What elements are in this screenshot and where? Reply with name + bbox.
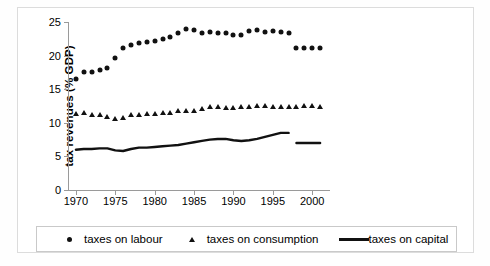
consumption-data-point	[191, 108, 197, 113]
consumption-data-point	[238, 104, 244, 109]
consumption-data-point	[278, 104, 284, 109]
chart-legend: taxes on labour taxes on consumption tax…	[36, 226, 457, 252]
consumption-data-point	[270, 104, 276, 109]
plot-area: 0510152025 1970197519801985199019952000	[68, 22, 328, 190]
consumption-data-point	[301, 103, 307, 108]
consumption-data-point	[104, 114, 110, 119]
labour-data-point	[129, 42, 134, 47]
consumption-data-point	[128, 112, 134, 117]
labour-data-point	[207, 30, 212, 35]
triangle-marker-icon	[189, 237, 195, 242]
labour-data-point	[215, 30, 220, 35]
x-tick-label-1975: 1975	[103, 196, 127, 207]
labour-data-point	[136, 40, 141, 45]
labour-data-point	[223, 31, 228, 36]
consumption-data-point	[199, 106, 205, 111]
labour-data-point	[310, 46, 315, 51]
consumption-data-point	[81, 110, 87, 115]
labour-data-point	[318, 46, 323, 51]
labour-data-point	[231, 33, 236, 38]
y-tick-label-10: 10	[49, 118, 61, 129]
consumption-data-point	[97, 112, 103, 117]
labour-data-point	[144, 40, 149, 45]
consumption-data-point	[262, 103, 268, 108]
labour-data-point	[262, 30, 267, 35]
labour-data-point	[113, 56, 118, 61]
consumption-data-point	[152, 111, 158, 116]
capital-line-segment	[76, 133, 289, 151]
labour-data-point	[239, 33, 244, 38]
labour-data-point	[89, 69, 94, 74]
labour-data-point	[270, 29, 275, 34]
consumption-data-point	[136, 112, 142, 117]
consumption-data-point	[286, 104, 292, 109]
consumption-data-point	[215, 104, 221, 109]
labour-data-point	[97, 68, 102, 73]
labour-data-point	[302, 46, 307, 51]
x-tick-label-2000: 2000	[300, 196, 324, 207]
x-axis-line	[68, 190, 330, 191]
labour-data-point	[105, 65, 110, 70]
labour-data-point	[152, 38, 157, 43]
legend-item-labour: taxes on labour	[67, 227, 163, 251]
labour-data-point	[160, 37, 165, 42]
x-tick-label-1985: 1985	[182, 196, 206, 207]
legend-label-capital: taxes on capital	[369, 233, 449, 245]
consumption-data-point	[89, 112, 95, 117]
labour-data-point	[199, 30, 204, 35]
consumption-data-point	[183, 108, 189, 113]
labour-data-point	[121, 45, 126, 50]
y-tick-label-20: 20	[49, 51, 61, 62]
x-tick-label-1995: 1995	[261, 196, 285, 207]
consumption-data-point	[175, 108, 181, 113]
chart-figure: tax revenues (% GDP) 0510152025 19701975…	[0, 0, 490, 266]
circle-marker-icon	[67, 237, 72, 242]
consumption-data-point	[317, 104, 323, 109]
x-tick-label-1990: 1990	[221, 196, 245, 207]
labour-data-point	[184, 27, 189, 32]
consumption-data-point	[293, 104, 299, 109]
consumption-data-point	[207, 104, 213, 109]
plot-wrapper: 0510152025 1970197519801985199019952000	[68, 22, 328, 190]
y-tick-label-0: 0	[55, 185, 61, 196]
legend-label-labour: taxes on labour	[84, 233, 163, 245]
consumption-data-point	[144, 111, 150, 116]
line-marker-icon	[339, 238, 369, 241]
labour-data-point	[286, 30, 291, 35]
consumption-data-point	[73, 111, 79, 116]
labour-data-point	[81, 69, 86, 74]
consumption-data-point	[160, 110, 166, 115]
y-tick-label-15: 15	[49, 84, 61, 95]
labour-data-point	[278, 30, 283, 35]
labour-data-point	[176, 30, 181, 35]
x-tick-label-1970: 1970	[64, 196, 88, 207]
legend-item-consumption: taxes on consumption	[189, 227, 319, 251]
y-tick-mark	[64, 190, 69, 191]
consumption-data-point	[309, 103, 315, 108]
labour-data-point	[255, 28, 260, 33]
consumption-data-point	[254, 103, 260, 108]
labour-data-point	[73, 77, 78, 82]
y-tick-label-25: 25	[49, 17, 61, 28]
y-tick-label-5: 5	[55, 151, 61, 162]
labour-data-point	[168, 35, 173, 40]
labour-data-point	[192, 28, 197, 33]
labour-data-point	[294, 46, 299, 51]
consumption-data-point	[167, 110, 173, 115]
consumption-data-point	[246, 104, 252, 109]
x-tick-label-1980: 1980	[142, 196, 166, 207]
consumption-data-point	[223, 105, 229, 110]
consumption-data-point	[120, 115, 126, 120]
consumption-data-point	[230, 105, 236, 110]
legend-label-consumption: taxes on consumption	[207, 233, 319, 245]
legend-item-capital: taxes on capital	[339, 227, 449, 251]
labour-data-point	[247, 29, 252, 34]
consumption-data-point	[112, 116, 118, 121]
